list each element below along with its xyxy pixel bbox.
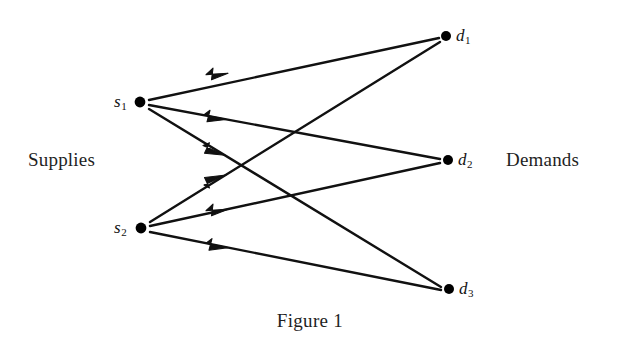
node-s2-dot: [136, 223, 147, 234]
node-label-d2-subscript: 2: [467, 158, 473, 170]
figure-container: Supplies Demands s1 s2 d1 d2 d3 Figure 1: [0, 0, 620, 347]
node-label-d1: d1: [456, 27, 471, 46]
node-group: [135, 31, 454, 294]
node-d2-dot: [443, 155, 453, 165]
node-s1-dot: [135, 97, 146, 108]
node-label-s2-base: s: [114, 218, 121, 237]
node-label-s2: s2: [114, 219, 127, 238]
node-label-s1-base: s: [114, 92, 121, 111]
node-label-d1-subscript: 1: [465, 34, 471, 46]
node-label-s1-subscript: 1: [121, 100, 127, 112]
demands-group-label: Demands: [506, 149, 579, 171]
node-label-d3: d3: [459, 280, 474, 299]
node-label-s1: s1: [114, 93, 127, 112]
node-label-d2: d2: [458, 151, 473, 170]
bipartite-network-graphic: [0, 0, 620, 347]
node-label-s2-subscript: 2: [121, 226, 127, 238]
node-label-d2-base: d: [458, 150, 467, 169]
node-label-d3-base: d: [459, 279, 468, 298]
supplies-group-label: Supplies: [28, 149, 95, 171]
arrowhead-icon: [206, 68, 228, 80]
edge-group: [149, 38, 441, 290]
node-label-d3-subscript: 3: [468, 287, 474, 299]
figure-caption: Figure 1: [0, 310, 620, 332]
node-label-d1-base: d: [456, 26, 465, 45]
node-d3-dot: [444, 284, 454, 294]
node-d1-dot: [441, 31, 451, 41]
